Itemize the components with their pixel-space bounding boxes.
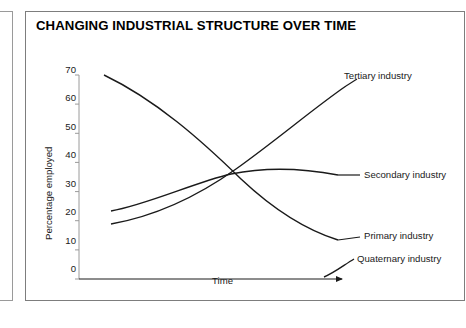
series-line-tertiary-industry [111,86,346,224]
chart-plot-area: 70 60 50 40 30 20 10 0 Percentage employ… [26,12,466,302]
series-label-secondary-industry: Secondary industry [364,169,446,180]
leader-line-primary [338,237,360,240]
page-edge-frame [0,11,13,301]
figure-container: CHANGING INDUSTRIAL STRUCTURE OVER TIME … [25,11,465,301]
series-line-quaternary-industry [324,259,354,277]
series-label-quaternary-industry: Quaternary industry [357,253,441,264]
series-label-tertiary-industry: Tertiary industry [344,70,412,81]
series-line-secondary-industry [111,169,338,211]
series-label-primary-industry: Primary industry [364,230,433,241]
y-axis-ticks [75,75,79,279]
series-line-primary-industry [104,75,338,240]
